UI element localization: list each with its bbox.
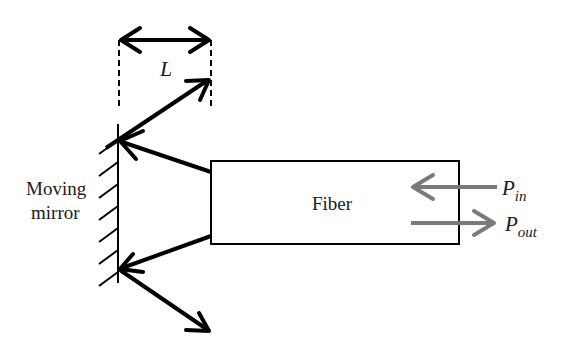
lower-incident-beam [120,236,211,272]
upper-reflected-beam [106,80,209,148]
p-in-label: Pin [501,176,527,204]
upper-incident-beam [120,131,211,172]
length-dimension: L [119,28,211,110]
p-out-label: Pout [504,212,538,240]
mirror-label-line2: mirror [31,202,80,223]
mirror-label-line1: Moving [26,178,87,199]
fiber-mirror-diagram: L Moving mirror Fiber Pin [0,0,561,364]
fiber-label: Fiber [312,193,353,214]
length-label: L [159,56,172,81]
lower-reflected-beam [120,270,209,331]
